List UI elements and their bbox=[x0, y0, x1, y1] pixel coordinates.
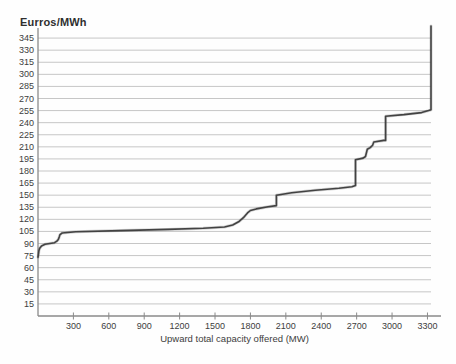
upward-capacity-price-chart: 1530456075901051201351501651801952102252… bbox=[0, 0, 456, 364]
y-tick-label: 150 bbox=[19, 190, 34, 200]
y-tick-label: 180 bbox=[19, 166, 34, 176]
x-tick-label: 1800 bbox=[240, 321, 260, 331]
y-tick-label: 75 bbox=[24, 251, 34, 261]
y-tick-label: 300 bbox=[19, 69, 34, 79]
x-tick-labels: 3006009001200150018002100240027003000330… bbox=[66, 321, 438, 331]
scanned-supply-curve-figure: Eurros/MWh 15304560759010512013515016518… bbox=[0, 0, 456, 364]
x-tick-label: 2400 bbox=[311, 321, 331, 331]
y-tick-label: 285 bbox=[19, 81, 34, 91]
x-tick-label: 3000 bbox=[382, 321, 402, 331]
y-tick-label: 330 bbox=[19, 45, 34, 55]
y-tick-labels: 1530456075901051201351501651801952102252… bbox=[19, 33, 34, 309]
y-tick-label: 210 bbox=[19, 142, 34, 152]
y-tick-label: 225 bbox=[19, 130, 34, 140]
upward-offers-supply-curve-blur bbox=[38, 26, 431, 257]
x-tick-label: 1200 bbox=[170, 321, 190, 331]
y-tick-label: 135 bbox=[19, 202, 34, 212]
y-tick-label: 270 bbox=[19, 94, 34, 104]
y-tick-label: 165 bbox=[19, 178, 34, 188]
x-tick-label: 600 bbox=[101, 321, 116, 331]
x-tick-label: 300 bbox=[66, 321, 81, 331]
y-tick-label: 195 bbox=[19, 154, 34, 164]
y-tick-label: 60 bbox=[24, 263, 34, 273]
x-axis-title: Upward total capacity offered (MW) bbox=[38, 333, 431, 344]
y-tick-label: 15 bbox=[24, 299, 34, 309]
y-tick-label: 315 bbox=[19, 57, 34, 67]
x-tick-label: 2700 bbox=[347, 321, 367, 331]
gridlines bbox=[38, 38, 431, 304]
y-tick-label: 120 bbox=[19, 214, 34, 224]
x-tick-label: 3300 bbox=[417, 321, 437, 331]
y-tick-label: 345 bbox=[19, 33, 34, 43]
y-tick-label: 105 bbox=[19, 226, 34, 236]
y-tick-label: 90 bbox=[24, 239, 34, 249]
y-tick-label: 30 bbox=[24, 287, 34, 297]
x-tick-label: 900 bbox=[137, 321, 152, 331]
x-tick-label: 2100 bbox=[276, 321, 296, 331]
y-tick-label: 240 bbox=[19, 118, 34, 128]
x-tick-label: 1500 bbox=[205, 321, 225, 331]
y-tick-label: 45 bbox=[24, 275, 34, 285]
y-tick-label: 255 bbox=[19, 106, 34, 116]
